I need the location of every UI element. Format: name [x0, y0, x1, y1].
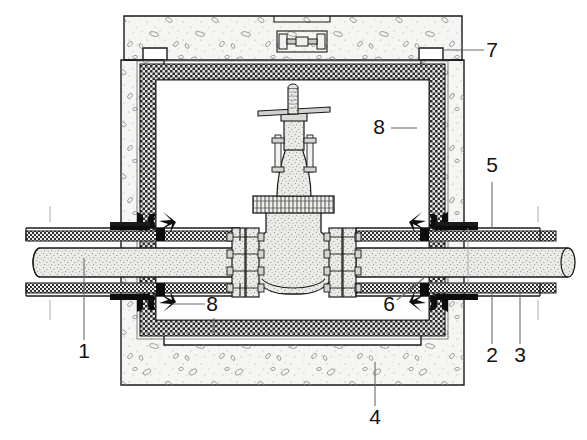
valve-flange-left — [227, 228, 264, 297]
callout-label-8a: 8 — [373, 115, 385, 138]
diagram-canvas: 123456788 — [0, 0, 587, 440]
callout-label-3: 3 — [514, 343, 526, 366]
carrier-pipe-left — [33, 248, 240, 277]
pipeline-left — [26, 228, 240, 296]
callout-label-2: 2 — [486, 343, 498, 366]
callout-label-5: 5 — [486, 153, 498, 176]
callout-label-4: 4 — [369, 405, 381, 428]
callout-label-7: 7 — [486, 38, 498, 61]
cross-section-drawing: 123456788 — [0, 0, 587, 440]
valve-bonnet-flange — [253, 196, 334, 213]
pipe-insulation-upper-left — [26, 231, 240, 241]
pipe-insulation-upper-right — [356, 231, 556, 241]
pipeline-right — [356, 228, 575, 296]
carrier-pipe-right — [356, 248, 575, 277]
callout-label-8b: 8 — [206, 292, 218, 315]
callout-label-6: 6 — [383, 292, 395, 315]
cover-slab-aggregate-texture — [124, 16, 462, 60]
callout-label-1: 1 — [78, 339, 90, 362]
valve-stuffing-box — [284, 120, 304, 150]
